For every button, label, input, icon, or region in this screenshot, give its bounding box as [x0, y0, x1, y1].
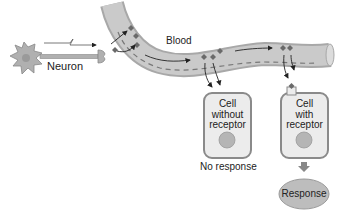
response-arrow-icon: [298, 162, 310, 172]
nucleus-icon: [296, 132, 312, 148]
response-label: Response: [281, 189, 327, 200]
label-line: receptor: [282, 120, 327, 131]
blood-label: Blood: [166, 36, 192, 47]
label-line: Cell: [205, 99, 250, 110]
nucleus-icon: [219, 132, 235, 148]
blood-vessel: [112, 4, 334, 70]
cell-with-receptor-label: Cell with receptor: [282, 99, 327, 131]
cell-without-receptor-label: Cell without receptor: [205, 99, 250, 131]
neuron-label: Neuron: [47, 61, 83, 73]
label-line: receptor: [205, 120, 250, 131]
label-line: Cell: [282, 99, 327, 110]
no-response-label: No response: [200, 162, 257, 173]
